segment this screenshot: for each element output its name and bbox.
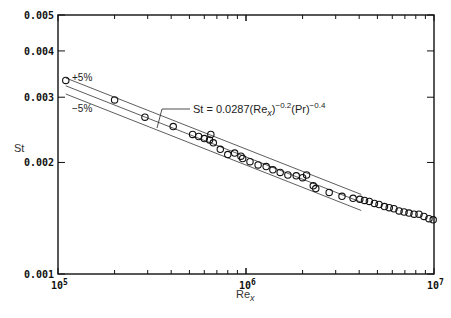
y-axis-label: St: [14, 142, 24, 154]
plot-frame: [58, 15, 434, 274]
data-point: [326, 189, 332, 195]
data-point: [430, 217, 436, 223]
correlation-equation: St = 0.0287(Rex)−0.2(Pr)−0.4: [193, 101, 326, 118]
data-point: [263, 163, 269, 169]
x-axis-label: Rex: [236, 288, 255, 303]
data-point: [255, 162, 261, 168]
y-tick-label: 0.001: [24, 269, 54, 280]
minus-5-percent-label: −5%: [72, 103, 92, 114]
y-axis-ticks: 0.0010.0020.0030.0040.005: [24, 10, 434, 280]
x-tick-label: 107: [427, 278, 444, 291]
x-axis-ticks: 105106107: [51, 15, 444, 291]
y-tick-label: 0.005: [24, 10, 54, 21]
correlation-lines: [66, 78, 361, 210]
data-point: [170, 123, 176, 129]
stanton-number-chart: 105106107 0.0010.0020.0030.0040.005 St R…: [0, 0, 451, 318]
data-point: [339, 193, 345, 199]
data-point: [225, 151, 231, 157]
data-point: [285, 172, 291, 178]
data-point: [247, 158, 253, 164]
y-tick-label: 0.002: [24, 157, 54, 168]
plot-border: [58, 15, 434, 274]
plus-5-percent-label: +5%: [72, 72, 92, 83]
data-point: [189, 131, 195, 137]
y-tick-label: 0.004: [24, 46, 54, 57]
y-tick-label: 0.003: [24, 92, 54, 103]
